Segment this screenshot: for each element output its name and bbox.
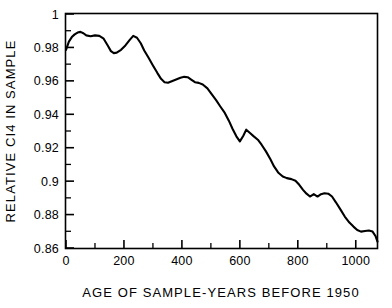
y-tick-label: 0.98	[34, 41, 59, 55]
y-tick-label: 0.86	[34, 242, 59, 256]
chart-figure: 0.860.880.90.920.940.960.981 02004006008…	[0, 0, 392, 308]
plot-frame	[66, 14, 378, 249]
y-tick-label: 0.9	[41, 175, 59, 189]
y-tick-label: 0.88	[34, 208, 59, 222]
y-tick-label: 0.96	[34, 74, 59, 88]
relative-c14-line-chart: 0.860.880.90.920.940.960.981 02004006008…	[0, 0, 392, 308]
x-tick-label: 0	[62, 254, 69, 268]
x-tick-label: 200	[113, 254, 134, 268]
x-tick-label: 800	[287, 254, 308, 268]
x-axis-tick-labels: 02004006008001000	[62, 254, 370, 268]
x-tick-label: 1000	[341, 254, 370, 268]
y-axis-title: RELATIVE CI4 IN SAMPLE	[3, 40, 18, 223]
y-axis-tick-labels: 0.860.880.90.920.940.960.981	[34, 8, 59, 256]
x-axis-title: AGE OF SAMPLE-YEARS BEFORE 1950	[82, 285, 360, 300]
x-tick-label: 400	[171, 254, 192, 268]
y-tick-label: 1	[52, 8, 59, 22]
y-tick-label: 0.94	[34, 108, 59, 122]
y-tick-label: 0.92	[34, 141, 59, 155]
x-tick-label: 600	[229, 254, 250, 268]
